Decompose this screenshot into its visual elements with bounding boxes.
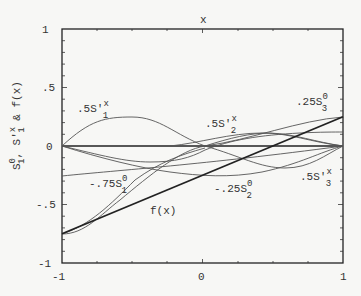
ann-s30: .25S03 xyxy=(296,92,328,114)
curve-s1x xyxy=(62,117,205,146)
curve-s20-b xyxy=(62,132,343,162)
svg-text:S01, S'x1 & f(x): S01, S'x1 & f(x) xyxy=(8,81,27,170)
chart: 1 .5 0 -.5 -1 -1 0 1 x S01, S'x1 & f(x) … xyxy=(0,0,361,296)
y-axis-label: S01, S'x1 & f(x) xyxy=(8,81,27,170)
curve-s10 xyxy=(62,146,205,234)
ann-s1x: .5S'x1 xyxy=(77,99,109,121)
y-tick-neg1: -1 xyxy=(38,258,52,270)
ann-s2x: .5S'x2 xyxy=(205,114,237,136)
top-axis-label: x xyxy=(200,14,207,26)
ann-fx: f(x) xyxy=(150,205,176,217)
y-tick-0: 0 xyxy=(46,141,53,153)
x-tick-1: 1 xyxy=(340,271,347,283)
ann-s10: -.75S01 xyxy=(89,174,127,196)
y-tick-neg0.5: -.5 xyxy=(36,199,56,211)
x-tick-0: 0 xyxy=(198,271,205,283)
y-tick-1: 1 xyxy=(42,24,49,36)
ann-s3x: .5S'x3 xyxy=(300,167,332,189)
annotations: .5S'x1 .5S'x2 .25S03 -.75S01 f(x) -.25S0… xyxy=(77,92,332,217)
y-tick-0.5: .5 xyxy=(42,82,55,94)
ann-s20: -.25S02 xyxy=(214,179,252,201)
x-tick-neg1: -1 xyxy=(52,271,66,283)
